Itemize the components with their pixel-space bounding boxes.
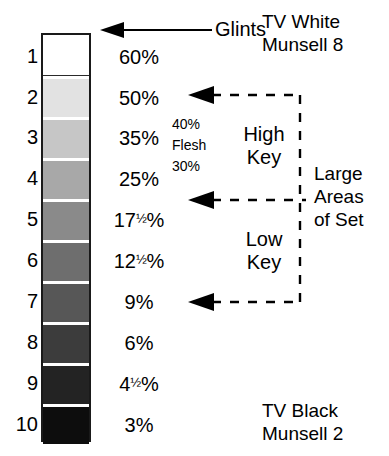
reflectance-fraction: ½ (136, 252, 147, 267)
gray-step-8 (43, 322, 89, 363)
large-areas-line-2: Areas (314, 185, 388, 208)
tv-white-line-2: Munsell 8 (262, 33, 343, 56)
high-key-line-2: Key (232, 146, 296, 169)
gray-step-9 (43, 363, 89, 404)
reflectance-value: 60 (119, 46, 141, 68)
large-areas-line-3: of Set (314, 208, 388, 231)
reflectance-label-6: 12½% (96, 250, 182, 271)
tv-white-caption: TV White Munsell 8 (262, 10, 343, 56)
low-key-line-2: Key (232, 251, 296, 274)
reflectance-label-1: 60% (96, 46, 182, 67)
step-number: 10 (8, 414, 38, 434)
reflectance-label-3: 35% (96, 127, 182, 148)
large-areas-of-set-caption: Large Areas of Set (314, 162, 388, 231)
reflectance-label-8: 6% (96, 332, 182, 353)
gray-step-3 (43, 117, 89, 158)
low-key-label: Low Key (232, 228, 296, 274)
glints-arrow-icon (100, 20, 212, 40)
reflectance-value: 50 (119, 87, 141, 109)
step-number: 8 (8, 332, 38, 352)
step-number: 2 (8, 87, 38, 107)
reflectance-value: 6 (125, 332, 136, 354)
gray-step-10 (43, 404, 89, 444)
reflectance-fraction: ½ (130, 375, 141, 390)
step-number: 1 (8, 46, 38, 66)
reflectance-label-2: 50% (96, 87, 182, 108)
low-key-line-1: Low (232, 228, 296, 251)
reflectance-value: 35 (119, 127, 141, 149)
grayscale-reflectance-chart: 1 2 3 4 5 6 7 8 9 10 60% 50% 35% 25% 17½… (0, 0, 389, 456)
reflectance-value: 12 (114, 250, 136, 272)
reflectance-value: 17 (114, 209, 136, 231)
gray-step-2 (43, 76, 89, 117)
reflectance-value: 4 (119, 373, 130, 395)
large-areas-line-1: Large (314, 162, 388, 185)
step-number: 3 (8, 127, 38, 147)
gray-step-4 (43, 158, 89, 199)
gray-step-5 (43, 199, 89, 240)
step-number: 9 (8, 373, 38, 393)
tv-black-line-1: TV Black (262, 399, 343, 422)
high-key-line-1: High (232, 123, 296, 146)
gray-step-6 (43, 240, 89, 281)
reflectance-label-5: 17½% (96, 209, 182, 230)
arrowhead-high-icon (188, 86, 214, 104)
reflectance-fraction: ½ (136, 211, 147, 226)
reflectance-label-4: 25% (96, 168, 182, 189)
grayscale-strip (41, 33, 91, 442)
tv-black-line-2: Munsell 2 (262, 422, 343, 445)
reflectance-label-9: 4½% (96, 373, 182, 394)
reflectance-label-10: 3% (96, 414, 182, 435)
step-number: 6 (8, 250, 38, 270)
key-range-bracket (182, 82, 310, 317)
arrowhead-low-icon (188, 293, 214, 311)
reflectance-value: 3 (125, 414, 136, 436)
step-number: 4 (8, 168, 38, 188)
step-number: 5 (8, 209, 38, 229)
glints-label: Glints (215, 19, 266, 39)
step-number: 7 (8, 291, 38, 311)
gray-step-7 (43, 281, 89, 322)
arrowhead-mid-icon (188, 191, 214, 209)
reflectance-value: 9 (125, 291, 136, 313)
tv-white-line-1: TV White (262, 10, 343, 33)
tv-black-caption: TV Black Munsell 2 (262, 399, 343, 445)
reflectance-value: 25 (119, 168, 141, 190)
reflectance-label-7: 9% (96, 291, 182, 312)
high-key-label: High Key (232, 123, 296, 169)
gray-step-1 (43, 35, 89, 76)
